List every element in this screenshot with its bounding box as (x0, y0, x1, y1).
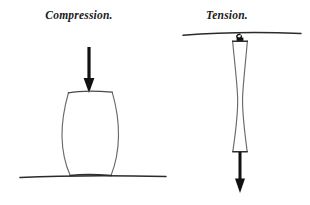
necked-bar-specimen (233, 41, 248, 152)
tension-panel: Tension. (183, 9, 301, 193)
pull-arrow-head (235, 179, 245, 194)
bar-left-edge (233, 41, 238, 152)
column-left-edge (62, 93, 70, 176)
hook-clamp-icon (237, 34, 244, 41)
compression-panel: Compression. (20, 9, 166, 178)
tension-label: Tension. (206, 9, 248, 21)
tension-pull-arrow (235, 152, 245, 193)
compression-load-arrow (84, 47, 95, 93)
bar-right-edge (243, 41, 248, 152)
figure-canvas: Compression. Tension. (0, 0, 310, 205)
ceiling-line (183, 33, 301, 36)
compression-tension-illustration: Compression. Tension. (0, 0, 310, 205)
barrel-column-specimen (62, 91, 119, 175)
ground-line (20, 176, 166, 178)
column-right-edge (111, 92, 119, 175)
column-top-edge (69, 91, 113, 93)
compression-label: Compression. (45, 9, 112, 22)
